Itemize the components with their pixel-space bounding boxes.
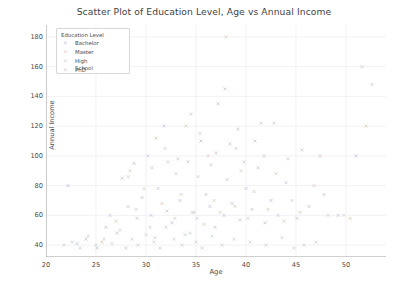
data-point	[285, 181, 288, 184]
data-point	[111, 242, 114, 245]
series-phd	[127, 65, 374, 178]
data-point	[243, 160, 246, 163]
data-point	[133, 162, 136, 165]
data-point	[151, 166, 154, 169]
x-axis-label: Age	[46, 268, 386, 276]
data-point	[249, 241, 252, 244]
chart-title: Scatter Plot of Education Level, Age vs …	[0, 6, 408, 17]
legend-marker-bachelor: ✕	[63, 40, 68, 47]
data-point	[287, 157, 290, 160]
x-tick-label: 20	[33, 261, 59, 269]
data-point	[105, 226, 108, 229]
data-point	[203, 223, 206, 226]
series-high-school	[63, 214, 346, 250]
data-point	[224, 87, 227, 90]
legend-title: Education Level	[61, 32, 104, 38]
data-point	[177, 157, 180, 160]
y-tick-label: 100	[3, 152, 43, 160]
data-point	[201, 247, 204, 250]
data-point	[197, 175, 200, 178]
data-point	[154, 236, 157, 239]
data-point	[205, 193, 208, 196]
chart-figure: Scatter Plot of Education Level, Age vs …	[0, 0, 408, 291]
y-tick-label: 180	[3, 33, 43, 41]
data-point	[349, 217, 352, 220]
y-tick-label: 140	[3, 92, 43, 100]
data-point	[247, 217, 250, 220]
data-point	[175, 172, 178, 175]
data-point	[267, 208, 270, 211]
data-point	[159, 247, 162, 250]
data-point	[281, 236, 284, 239]
y-axis-label: Annual Income	[48, 85, 56, 165]
data-point	[229, 142, 232, 145]
data-point	[219, 211, 222, 214]
data-point	[260, 122, 263, 125]
data-point	[210, 163, 213, 166]
legend-label-bachelor: Bachelor	[75, 40, 99, 47]
legend-label-master: Master	[75, 49, 93, 56]
data-point	[155, 137, 158, 140]
data-point	[254, 140, 257, 143]
data-point	[129, 169, 132, 172]
data-point	[211, 235, 214, 238]
data-point	[79, 247, 82, 250]
data-point	[149, 226, 152, 229]
data-point	[115, 220, 118, 223]
data-point	[371, 83, 374, 86]
data-point	[231, 202, 234, 205]
data-point	[180, 193, 183, 196]
data-point	[209, 205, 212, 208]
data-point	[76, 242, 79, 245]
data-point	[275, 172, 278, 175]
data-point	[240, 169, 243, 172]
data-point	[103, 238, 106, 241]
data-point	[200, 140, 203, 143]
data-point	[237, 128, 240, 131]
data-point	[273, 122, 276, 125]
data-point	[184, 233, 187, 236]
data-point	[253, 190, 256, 193]
data-point	[121, 177, 124, 180]
x-tick-label: 35	[183, 261, 209, 269]
x-tick-label: 25	[83, 261, 109, 269]
data-point	[85, 238, 88, 241]
data-point	[187, 160, 190, 163]
data-point	[116, 232, 119, 235]
data-point	[291, 199, 294, 202]
data-point	[127, 205, 130, 208]
data-point	[165, 226, 168, 229]
data-point	[323, 193, 326, 196]
data-point	[161, 202, 164, 205]
data-point	[127, 175, 130, 178]
data-point	[171, 221, 174, 224]
data-point	[101, 241, 104, 244]
y-tick-label: 60	[3, 211, 43, 219]
data-point	[308, 205, 311, 208]
data-point	[239, 218, 242, 221]
data-point	[199, 132, 202, 135]
data-point	[189, 232, 192, 235]
data-point	[174, 217, 177, 220]
data-point	[153, 241, 156, 244]
series-bachelor	[67, 102, 358, 249]
legend-marker-high-school: ✕	[63, 58, 68, 65]
x-tick-label: 45	[283, 261, 309, 269]
data-point	[135, 208, 138, 211]
data-point	[251, 208, 254, 211]
data-point	[190, 113, 193, 116]
legend-marker-phd: ✕	[63, 67, 68, 74]
data-point	[87, 235, 90, 238]
data-point	[164, 147, 167, 150]
plot-area: Education Level ✕ Bachelor ✕ Master ✕ Hi…	[46, 25, 386, 257]
data-point	[234, 205, 237, 208]
data-point	[119, 229, 122, 232]
legend-label-phd: PhD	[75, 67, 86, 74]
data-point	[283, 220, 286, 223]
data-point	[214, 226, 217, 229]
data-point	[217, 102, 220, 105]
y-tick-label: 120	[3, 122, 43, 130]
data-point	[143, 187, 146, 190]
data-point	[257, 166, 260, 169]
data-point	[166, 209, 169, 212]
